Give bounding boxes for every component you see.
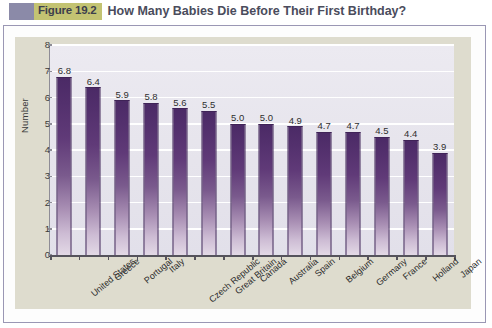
y-axis-tick-label: 1 bbox=[26, 224, 50, 234]
y-axis-tick-mark bbox=[48, 176, 52, 178]
bar-value-label: 4.9 bbox=[289, 116, 302, 126]
y-axis-tick-mark bbox=[48, 97, 52, 99]
y-axis-ticks: 012345678 bbox=[20, 45, 50, 255]
bar[interactable]: 5.6 bbox=[172, 108, 187, 255]
bar-value-label: 3.9 bbox=[433, 142, 446, 152]
bar-value-label: 4.5 bbox=[375, 126, 388, 136]
chart-panel: Number 6.86.45.95.85.65.55.05.04.94.74.7… bbox=[15, 37, 471, 309]
y-axis-tick-label: 4 bbox=[26, 145, 50, 155]
bar[interactable]: 4.7 bbox=[317, 132, 332, 255]
y-axis-tick-label: 6 bbox=[26, 93, 50, 103]
bar-slot: 5.9 bbox=[108, 45, 137, 255]
x-axis-category-label: Portugal bbox=[143, 257, 174, 285]
bar-slot: 5.6 bbox=[165, 45, 194, 255]
bar[interactable]: 6.4 bbox=[86, 87, 101, 255]
y-axis-tick-mark bbox=[48, 71, 52, 73]
bar-slot: 6.4 bbox=[79, 45, 108, 255]
bar[interactable]: 4.7 bbox=[345, 132, 360, 255]
bar-value-label: 5.8 bbox=[144, 92, 157, 102]
plot-area: 6.86.45.95.85.65.55.05.04.94.74.74.54.43… bbox=[50, 45, 454, 255]
bars-layer: 6.86.45.95.85.65.55.05.04.94.74.74.54.43… bbox=[50, 45, 454, 255]
plot-wrapper: 6.86.45.95.85.65.55.05.04.94.74.74.54.43… bbox=[50, 45, 454, 255]
bar[interactable]: 5.0 bbox=[230, 124, 245, 255]
bar-slot: 5.8 bbox=[137, 45, 166, 255]
bar[interactable]: 5.5 bbox=[201, 111, 216, 255]
x-axis-category-label: Japan bbox=[458, 257, 483, 280]
y-axis-tick-label: 2 bbox=[26, 198, 50, 208]
bar-slot: 3.9 bbox=[425, 45, 454, 255]
bar-value-label: 5.9 bbox=[116, 90, 129, 100]
x-axis-category-label: Holland bbox=[431, 257, 460, 284]
bar-value-label: 5.6 bbox=[173, 98, 186, 108]
bar-slot: 6.8 bbox=[50, 45, 79, 255]
figure-swatch bbox=[9, 3, 34, 20]
figure-number-badge: Figure 19.2 bbox=[34, 3, 102, 20]
bar[interactable]: 4.5 bbox=[374, 137, 389, 255]
y-axis-tick-mark bbox=[48, 202, 52, 204]
bar-slot: 4.7 bbox=[339, 45, 368, 255]
y-axis-tick-mark bbox=[48, 149, 52, 151]
bar[interactable]: 5.9 bbox=[115, 100, 130, 255]
x-axis-category-label: Greece bbox=[113, 257, 141, 283]
figure-number-label: Figure 19.2 bbox=[38, 5, 97, 17]
bar-slot: 5.5 bbox=[194, 45, 223, 255]
y-axis-tick-label: 0 bbox=[26, 250, 50, 260]
y-axis-tick-label: 5 bbox=[26, 119, 50, 129]
y-axis-tick-label: 3 bbox=[26, 171, 50, 181]
y-axis-tick-label: 7 bbox=[26, 66, 50, 76]
bar[interactable]: 4.4 bbox=[403, 140, 418, 256]
bar-value-label: 6.8 bbox=[58, 66, 71, 76]
y-axis-tick-mark bbox=[48, 44, 52, 46]
bar-value-label: 5.0 bbox=[260, 113, 273, 123]
figure-title: How Many Babies Die Before Their First B… bbox=[108, 5, 407, 18]
bar-slot: 4.4 bbox=[396, 45, 425, 255]
bar-value-label: 5.0 bbox=[231, 113, 244, 123]
bar-value-label: 6.4 bbox=[87, 77, 100, 87]
x-axis-category-label: Belgium bbox=[345, 257, 376, 285]
x-axis-category-labels: United StatesGreecePortugalItalyCzech Re… bbox=[50, 257, 460, 307]
bar-slot: 4.9 bbox=[281, 45, 310, 255]
bar[interactable]: 3.9 bbox=[432, 153, 447, 255]
y-axis-tick-mark bbox=[48, 228, 52, 230]
bar-slot: 4.5 bbox=[367, 45, 396, 255]
bar-slot: 4.7 bbox=[310, 45, 339, 255]
bar-value-label: 4.7 bbox=[346, 121, 359, 131]
chart-card: Number 6.86.45.95.85.65.55.05.04.94.74.7… bbox=[3, 25, 486, 323]
bar-value-label: 4.7 bbox=[318, 121, 331, 131]
bar-value-label: 5.5 bbox=[202, 100, 215, 110]
bar[interactable]: 6.8 bbox=[57, 77, 72, 256]
y-axis-tick-mark bbox=[48, 123, 52, 125]
bar[interactable]: 4.9 bbox=[288, 126, 303, 255]
bar[interactable]: 5.8 bbox=[143, 103, 158, 255]
bar-slot: 5.0 bbox=[252, 45, 281, 255]
bar-slot: 5.0 bbox=[223, 45, 252, 255]
bar[interactable]: 5.0 bbox=[259, 124, 274, 255]
figure-header: Figure 19.2 How Many Babies Die Before T… bbox=[0, 0, 492, 22]
y-axis-tick-label: 8 bbox=[26, 40, 50, 50]
bar-value-label: 4.4 bbox=[404, 129, 417, 139]
